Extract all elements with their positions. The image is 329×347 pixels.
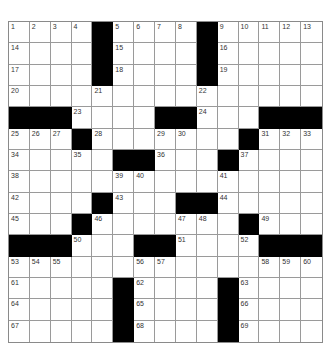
grid-cell[interactable]	[72, 299, 93, 320]
grid-cell[interactable]: 11	[259, 22, 280, 43]
grid-cell[interactable]	[259, 65, 280, 86]
grid-cell[interactable]	[113, 129, 134, 150]
grid-cell[interactable]: 62	[134, 278, 155, 299]
grid-cell[interactable]	[280, 278, 301, 299]
grid-cell[interactable]	[113, 214, 134, 235]
grid-cell[interactable]	[30, 193, 51, 214]
grid-cell[interactable]: 21	[92, 86, 113, 107]
grid-cell[interactable]	[259, 43, 280, 64]
grid-cell[interactable]: 43	[113, 193, 134, 214]
grid-cell[interactable]	[197, 299, 218, 320]
grid-cell[interactable]: 49	[259, 214, 280, 235]
grid-cell[interactable]	[301, 193, 322, 214]
grid-cell[interactable]	[239, 65, 260, 86]
grid-cell[interactable]	[51, 171, 72, 192]
grid-cell[interactable]: 24	[197, 107, 218, 128]
grid-cell[interactable]	[30, 86, 51, 107]
grid-cell[interactable]: 59	[280, 257, 301, 278]
grid-cell[interactable]: 38	[9, 171, 30, 192]
grid-cell[interactable]	[259, 171, 280, 192]
grid-cell[interactable]	[30, 65, 51, 86]
grid-cell[interactable]	[92, 278, 113, 299]
grid-cell[interactable]	[259, 278, 280, 299]
grid-cell[interactable]	[92, 299, 113, 320]
grid-cell[interactable]: 18	[113, 65, 134, 86]
grid-cell[interactable]: 51	[176, 235, 197, 256]
grid-cell[interactable]	[239, 193, 260, 214]
grid-cell[interactable]: 66	[239, 299, 260, 320]
grid-cell[interactable]: 23	[72, 107, 93, 128]
grid-cell[interactable]: 28	[92, 129, 113, 150]
grid-cell[interactable]	[259, 86, 280, 107]
grid-cell[interactable]	[197, 235, 218, 256]
grid-cell[interactable]	[155, 299, 176, 320]
grid-cell[interactable]	[301, 43, 322, 64]
grid-cell[interactable]	[134, 86, 155, 107]
grid-cell[interactable]: 61	[9, 278, 30, 299]
grid-cell[interactable]	[155, 193, 176, 214]
grid-cell[interactable]: 48	[197, 214, 218, 235]
grid-cell[interactable]	[280, 150, 301, 171]
grid-cell[interactable]	[176, 171, 197, 192]
grid-cell[interactable]	[92, 235, 113, 256]
grid-cell[interactable]	[51, 214, 72, 235]
grid-cell[interactable]: 5	[113, 22, 134, 43]
grid-cell[interactable]	[218, 107, 239, 128]
grid-cell[interactable]	[92, 150, 113, 171]
grid-cell[interactable]: 31	[259, 129, 280, 150]
grid-cell[interactable]	[197, 278, 218, 299]
grid-cell[interactable]	[155, 65, 176, 86]
grid-cell[interactable]	[218, 214, 239, 235]
grid-cell[interactable]: 46	[92, 214, 113, 235]
grid-cell[interactable]	[197, 129, 218, 150]
grid-cell[interactable]	[259, 193, 280, 214]
grid-cell[interactable]: 68	[134, 321, 155, 342]
grid-cell[interactable]	[280, 65, 301, 86]
grid-cell[interactable]: 64	[9, 299, 30, 320]
grid-cell[interactable]	[176, 43, 197, 64]
grid-cell[interactable]	[51, 299, 72, 320]
grid-cell[interactable]	[301, 321, 322, 342]
grid-cell[interactable]	[197, 321, 218, 342]
grid-cell[interactable]: 34	[9, 150, 30, 171]
grid-cell[interactable]: 17	[9, 65, 30, 86]
grid-cell[interactable]: 50	[72, 235, 93, 256]
grid-cell[interactable]: 39	[113, 171, 134, 192]
grid-cell[interactable]	[51, 193, 72, 214]
grid-cell[interactable]	[72, 65, 93, 86]
grid-cell[interactable]	[51, 43, 72, 64]
grid-cell[interactable]	[301, 65, 322, 86]
grid-cell[interactable]: 44	[218, 193, 239, 214]
grid-cell[interactable]	[280, 193, 301, 214]
grid-cell[interactable]	[113, 257, 134, 278]
grid-cell[interactable]	[51, 86, 72, 107]
grid-cell[interactable]: 65	[134, 299, 155, 320]
grid-cell[interactable]: 22	[197, 86, 218, 107]
grid-cell[interactable]	[155, 171, 176, 192]
grid-cell[interactable]	[280, 214, 301, 235]
grid-cell[interactable]: 3	[51, 22, 72, 43]
grid-cell[interactable]	[155, 321, 176, 342]
grid-cell[interactable]	[134, 214, 155, 235]
grid-cell[interactable]	[301, 171, 322, 192]
grid-cell[interactable]: 7	[155, 22, 176, 43]
grid-cell[interactable]: 14	[9, 43, 30, 64]
grid-cell[interactable]	[92, 171, 113, 192]
grid-cell[interactable]: 6	[134, 22, 155, 43]
grid-cell[interactable]: 57	[155, 257, 176, 278]
grid-cell[interactable]: 60	[301, 257, 322, 278]
grid-cell[interactable]	[239, 257, 260, 278]
grid-cell[interactable]: 67	[9, 321, 30, 342]
grid-cell[interactable]	[51, 321, 72, 342]
grid-cell[interactable]: 37	[239, 150, 260, 171]
grid-cell[interactable]	[301, 278, 322, 299]
grid-cell[interactable]	[51, 150, 72, 171]
grid-cell[interactable]	[197, 150, 218, 171]
grid-cell[interactable]	[155, 214, 176, 235]
grid-cell[interactable]: 29	[155, 129, 176, 150]
grid-cell[interactable]	[280, 43, 301, 64]
grid-cell[interactable]: 26	[30, 129, 51, 150]
grid-cell[interactable]	[176, 321, 197, 342]
grid-cell[interactable]	[30, 43, 51, 64]
grid-cell[interactable]: 58	[259, 257, 280, 278]
